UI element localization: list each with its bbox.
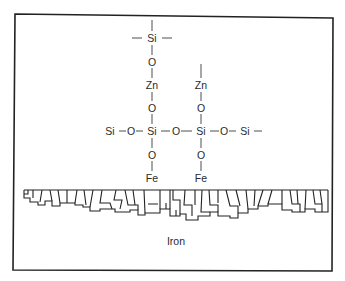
- diagram-frame: [13, 14, 333, 271]
- atom-fe-left: Fe: [146, 172, 158, 184]
- atom-si-chain: Si: [196, 125, 205, 137]
- atom-si-chain: Si: [105, 125, 114, 137]
- atom-si-top: Si: [147, 32, 156, 44]
- atom-si-chain: Si: [147, 125, 156, 137]
- atom-o: O: [197, 102, 205, 114]
- atom-o: O: [148, 149, 156, 161]
- atom-o: O: [197, 149, 205, 161]
- oxide-grain-layer: [24, 190, 328, 220]
- zinc-silicate-diagram: Si O Zn O Zn O Si O Si O Si O Si O Fe O …: [0, 0, 345, 281]
- atom-zn-right: Zn: [195, 79, 207, 91]
- atom-o: O: [172, 125, 180, 137]
- substrate-label-iron: Iron: [167, 235, 185, 247]
- atom-si-chain: Si: [240, 125, 249, 137]
- atom-o: O: [127, 125, 135, 137]
- atom-o: O: [148, 56, 156, 68]
- atom-zn-left: Zn: [146, 79, 158, 91]
- atom-o: O: [220, 125, 228, 137]
- atom-o: O: [148, 102, 156, 114]
- atom-fe-right: Fe: [195, 172, 207, 184]
